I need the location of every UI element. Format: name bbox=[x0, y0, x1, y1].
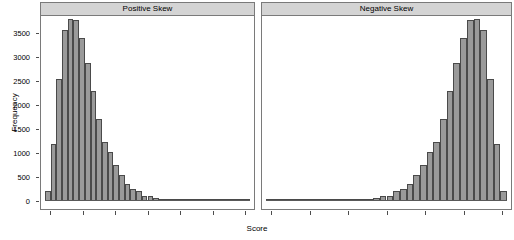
y-tick-mark bbox=[36, 177, 39, 178]
y-tick-mark bbox=[36, 153, 39, 154]
histogram-bar bbox=[453, 63, 460, 201]
x-tick-mark bbox=[464, 211, 465, 215]
panel-title-positive-skew: Positive Skew bbox=[123, 5, 173, 13]
x-tick-mark bbox=[271, 211, 272, 215]
histogram-bar bbox=[494, 144, 501, 201]
y-tick-mark bbox=[36, 105, 39, 106]
y-tick-mark bbox=[36, 201, 39, 202]
y-tick-label: 1000 bbox=[0, 148, 30, 157]
y-tick-mark bbox=[36, 57, 39, 58]
panel-positive-skew: Positive Skew bbox=[40, 2, 255, 210]
histogram-figure: Frequency 0500100015002000250030003500 P… bbox=[0, 0, 514, 240]
y-tick-label: 2000 bbox=[0, 100, 30, 109]
x-tick-mark bbox=[387, 211, 388, 215]
histogram-bar bbox=[487, 79, 494, 201]
x-tick-mark bbox=[348, 211, 349, 215]
y-tick-label: 500 bbox=[0, 172, 30, 181]
x-axis-label: Score bbox=[0, 224, 514, 233]
y-tick-label: 0 bbox=[0, 197, 30, 206]
x-tick-mark bbox=[502, 211, 503, 215]
panel-strip-positive-skew: Positive Skew bbox=[41, 3, 254, 16]
histogram-bar bbox=[447, 91, 454, 201]
y-tick-label: 3500 bbox=[0, 28, 30, 37]
histogram-bar bbox=[480, 30, 487, 201]
histogram-bar bbox=[413, 175, 420, 201]
x-tick-mark bbox=[180, 211, 181, 215]
plot-area-negative-skew bbox=[262, 16, 511, 209]
histogram-bar bbox=[433, 142, 440, 201]
y-tick-mark bbox=[36, 129, 39, 130]
bars-negative-skew bbox=[262, 16, 511, 201]
panel-strip-negative-skew: Negative Skew bbox=[262, 3, 511, 16]
histogram-bar bbox=[427, 152, 434, 201]
panel-negative-skew: Negative Skew bbox=[261, 2, 512, 210]
baseline-positive-skew bbox=[45, 200, 250, 201]
bars-positive-skew bbox=[41, 16, 254, 201]
histogram-bar bbox=[460, 38, 467, 201]
x-tick-mark bbox=[50, 211, 51, 215]
histogram-bar bbox=[467, 20, 474, 201]
plot-area-positive-skew bbox=[41, 16, 254, 209]
histogram-bar bbox=[474, 19, 481, 201]
y-tick-label: 3000 bbox=[0, 52, 30, 61]
panel-title-negative-skew: Negative Skew bbox=[360, 5, 413, 13]
y-tick-mark bbox=[36, 33, 39, 34]
histogram-bar bbox=[407, 184, 414, 201]
histogram-bar bbox=[440, 119, 447, 201]
histogram-bar bbox=[420, 165, 427, 201]
x-tick-mark bbox=[148, 211, 149, 215]
y-axis: 0500100015002000250030003500 bbox=[0, 0, 36, 240]
x-tick-mark bbox=[310, 211, 311, 215]
y-tick-mark bbox=[36, 81, 39, 82]
x-tick-mark bbox=[83, 211, 84, 215]
y-tick-label: 1500 bbox=[0, 124, 30, 133]
y-tick-label: 2500 bbox=[0, 76, 30, 85]
x-tick-mark bbox=[115, 211, 116, 215]
baseline-negative-skew bbox=[266, 200, 507, 201]
x-tick-mark bbox=[425, 211, 426, 215]
x-tick-mark bbox=[213, 211, 214, 215]
x-tick-mark bbox=[245, 211, 246, 215]
